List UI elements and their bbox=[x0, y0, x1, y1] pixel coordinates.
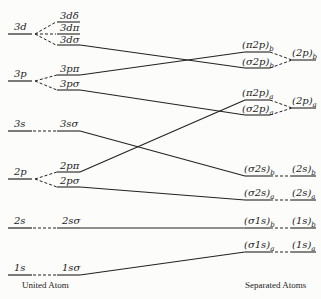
mo-label-sub: a bbox=[270, 193, 274, 201]
mo-label-sub: a bbox=[269, 93, 273, 101]
mo-label-text: (σ2p) bbox=[242, 56, 269, 67]
sublevel-label-2p-pi: 2pπ bbox=[60, 161, 79, 171]
mo-label-sub: b bbox=[269, 62, 273, 70]
sublevel-label-3p-pi: 3pπ bbox=[60, 64, 79, 74]
united-atom-caption: United Atom bbox=[22, 280, 69, 290]
mo-label-sigma2s-a: (σ2s)a bbox=[244, 188, 274, 201]
mo-label-sub: b bbox=[270, 169, 274, 177]
sublevel-label-3p-sigma: 3pσ bbox=[60, 79, 80, 89]
atom-label-1s-b: (1s)b bbox=[292, 216, 316, 229]
mo-label-pi2p-a: (π2p)a bbox=[242, 88, 273, 101]
atom-label-sub: b bbox=[311, 221, 315, 229]
mo-label-sigma2s-b: (σ2s)b bbox=[244, 164, 275, 177]
mo-label-text: (σ1s) bbox=[244, 239, 270, 250]
level-label-3p: 3p bbox=[14, 69, 27, 79]
level-label-2s: 2s bbox=[14, 216, 26, 226]
separated-atoms-caption: Separated Atoms bbox=[245, 280, 306, 290]
mo-label-text: (σ2s) bbox=[244, 187, 270, 198]
sublevel-label-2p-sigma: 2pσ bbox=[60, 176, 80, 186]
mo-label-sigma1s-a: (σ1s)a bbox=[244, 240, 274, 253]
atom-label-1s-a: (1s)a bbox=[292, 240, 315, 253]
level-label-2p: 2p bbox=[14, 167, 27, 177]
sublevel-label-3d-delta: 3dδ bbox=[60, 11, 79, 21]
mo-label-pi2p-b: (π2p)b bbox=[242, 40, 274, 53]
sublevel-label-3s-sigma: 3sσ bbox=[60, 119, 78, 129]
level-label-1s: 1s bbox=[14, 263, 26, 273]
atom-label-sub: b bbox=[311, 169, 315, 177]
mo-label-text: (π2p) bbox=[242, 87, 269, 98]
atom-label-sub: b bbox=[313, 53, 317, 61]
atom-label-text: (1s) bbox=[292, 239, 311, 250]
atom-label-2s-b: (2s)b bbox=[292, 164, 316, 177]
atom-label-text: (2p) bbox=[292, 95, 313, 106]
mo-label-sub: b bbox=[269, 45, 273, 53]
mo-label-sigma1s-b: (σ1s)b bbox=[244, 216, 275, 229]
correlation-diagram: 3d 3p 3s 2p 2s 1s 3dδ 3dπ 3dσ 3pπ 3pσ 3s… bbox=[0, 0, 321, 299]
atom-label-2p-b: (2p)b bbox=[292, 48, 317, 61]
atom-label-text: (2s) bbox=[292, 187, 311, 198]
atom-label-2p-a: (2p)a bbox=[292, 96, 317, 109]
atom-label-text: (2p) bbox=[292, 47, 313, 58]
sublevel-label-3d-sigma: 3dσ bbox=[60, 35, 80, 45]
mo-label-sub: a bbox=[269, 109, 273, 117]
mo-label-sub: b bbox=[270, 221, 274, 229]
mo-label-sigma2p-a: (σ2p)a bbox=[242, 104, 274, 117]
atom-label-2s-a: (2s)a bbox=[292, 188, 315, 201]
atom-label-sub: a bbox=[311, 193, 315, 201]
atom-label-sub: a bbox=[311, 245, 315, 253]
atom-label-sub: a bbox=[313, 101, 317, 109]
mo-label-text: (σ2s) bbox=[244, 163, 270, 174]
atom-label-text: (2s) bbox=[292, 163, 311, 174]
mo-label-sub: a bbox=[270, 245, 274, 253]
mo-label-text: (σ2p) bbox=[242, 103, 269, 114]
sublevel-label-2s-sigma: 2sσ bbox=[62, 216, 80, 226]
sublevel-label-1s-sigma: 1sσ bbox=[62, 263, 80, 273]
mo-label-sigma2p-b: (σ2p)b bbox=[242, 57, 274, 70]
level-label-3s: 3s bbox=[14, 119, 26, 129]
mo-label-text: (π2p) bbox=[242, 39, 269, 50]
atom-label-text: (1s) bbox=[292, 215, 311, 226]
sublevel-label-3d-pi: 3dπ bbox=[60, 23, 79, 33]
mo-label-text: (σ1s) bbox=[244, 215, 270, 226]
level-label-3d: 3d bbox=[14, 22, 27, 32]
